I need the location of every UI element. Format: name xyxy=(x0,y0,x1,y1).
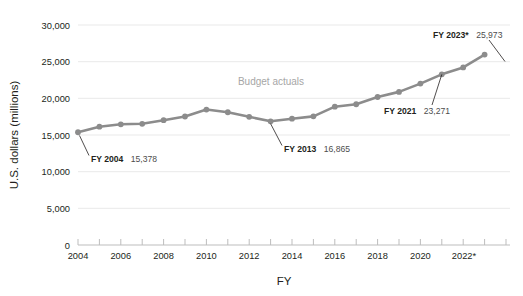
annotation-fy2023-value: 25,973 xyxy=(476,30,503,40)
data-point-2021 xyxy=(439,71,445,77)
series-note-label: Budget actuals xyxy=(238,76,304,87)
leader-fy2004 xyxy=(80,136,90,156)
x-tick-marks xyxy=(78,239,506,245)
y-tick-label-15000: 15,000 xyxy=(42,131,70,141)
y-axis-title: U.S. dollars (millions) xyxy=(8,81,20,190)
data-point-2014 xyxy=(289,116,295,122)
data-point-2006 xyxy=(118,121,124,127)
data-point-2008 xyxy=(161,117,167,123)
data-point-2016 xyxy=(332,104,338,110)
data-point-2010 xyxy=(204,107,210,113)
data-point-2012 xyxy=(246,114,252,120)
x-tick-labels: 2004 2006 2008 2010 2012 2014 2016 2018 … xyxy=(68,251,477,261)
data-point-2011 xyxy=(225,109,231,115)
data-point-2023 xyxy=(482,52,488,58)
x-tick-label-2018: 2018 xyxy=(367,251,388,261)
data-point-2004 xyxy=(75,129,81,135)
x-tick-label-2016: 2016 xyxy=(324,251,345,261)
annotation-fy2023: FY 2023* 25,973 xyxy=(433,24,503,41)
y-tick-label-0: 0 xyxy=(65,241,70,251)
annotation-fy2004: FY 2004 15,378 xyxy=(91,148,157,165)
data-point-2009 xyxy=(182,114,188,120)
x-tick-label-2014: 2014 xyxy=(282,251,303,261)
y-tick-label-30000: 30,000 xyxy=(42,21,70,31)
leader-fy2023 xyxy=(489,40,505,62)
y-tick-label-25000: 25,000 xyxy=(42,57,70,67)
chart-canvas: 30,000 25,000 20,000 15,000 10,000 5,000… xyxy=(0,0,523,296)
annotation-fy2021: FY 2021 23,271 xyxy=(384,100,450,117)
data-point-2018 xyxy=(375,94,381,100)
x-tick-label-2008: 2008 xyxy=(153,251,174,261)
y-tick-label-10000: 10,000 xyxy=(42,167,70,177)
x-tick-label-2004: 2004 xyxy=(68,251,89,261)
annotation-leaders xyxy=(80,40,506,156)
annotation-fy2013-bold: FY 2013 xyxy=(284,144,317,154)
data-point-2015 xyxy=(311,113,317,119)
x-tick-label-2012: 2012 xyxy=(239,251,260,261)
data-point-2007 xyxy=(139,121,145,127)
annotation-fy2023-bold: FY 2023* xyxy=(433,30,469,40)
data-point-2013 xyxy=(268,118,274,124)
data-point-2022 xyxy=(460,64,466,70)
y-tick-labels: 30,000 25,000 20,000 15,000 10,000 5,000… xyxy=(42,21,70,251)
x-tick-label-2022: 2022* xyxy=(452,251,477,261)
x-tick-label-2020: 2020 xyxy=(410,251,431,261)
series-line-budget-actuals xyxy=(78,55,485,133)
annotation-fy2021-text: FY 2021 23,271 xyxy=(384,100,450,117)
annotation-fy2021-value: 23,271 xyxy=(424,106,451,116)
annotation-fy2023-text: FY 2023* 25,973 xyxy=(433,24,503,41)
data-point-2017 xyxy=(353,101,359,107)
y-tick-label-5000: 5,000 xyxy=(47,204,70,214)
annotation-fy2004-value: 15,378 xyxy=(131,154,158,164)
data-point-2020 xyxy=(418,81,424,87)
data-point-2005 xyxy=(97,124,103,130)
annotation-fy2013: FY 2013 16,865 xyxy=(284,138,350,155)
x-axis-title: FY xyxy=(277,275,292,287)
annotation-fy2013-value: 16,865 xyxy=(324,144,351,154)
annotation-fy2004-bold: FY 2004 xyxy=(91,154,124,164)
y-tick-label-20000: 20,000 xyxy=(42,94,70,104)
x-tick-label-2010: 2010 xyxy=(196,251,217,261)
annotation-fy2004-text: FY 2004 15,378 xyxy=(91,148,157,165)
data-point-2019 xyxy=(396,89,402,95)
line-chart: 30,000 25,000 20,000 15,000 10,000 5,000… xyxy=(0,0,523,296)
annotation-fy2021-bold: FY 2021 xyxy=(384,106,417,116)
annotation-fy2013-text: FY 2013 16,865 xyxy=(284,138,350,155)
data-series-budget-actuals xyxy=(75,52,487,136)
x-tick-label-2006: 2006 xyxy=(110,251,131,261)
